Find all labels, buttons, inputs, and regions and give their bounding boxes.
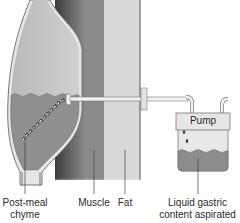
label-liquid-gastric-content: Liquid gastric content aspirated — [155, 197, 240, 221]
liquid-label-line1: Liquid gastric — [155, 197, 240, 209]
droplet-icon — [186, 139, 189, 143]
chyme-label-line2: chyme — [0, 209, 50, 221]
label-post-meal-chyme: Post-meal chyme — [0, 197, 50, 221]
droplet-icon — [183, 130, 186, 134]
pump-label: Pump — [176, 115, 230, 126]
tube-body — [70, 97, 188, 101]
chyme-label-line1: Post-meal — [0, 197, 50, 209]
liquid-label-line2: content aspirated — [155, 209, 240, 221]
label-muscle: Muscle — [74, 197, 114, 209]
aspiration-diagram — [0, 0, 240, 223]
label-fat: Fat — [113, 197, 137, 209]
external-bumper — [141, 88, 147, 110]
jar-liquid — [178, 150, 228, 172]
